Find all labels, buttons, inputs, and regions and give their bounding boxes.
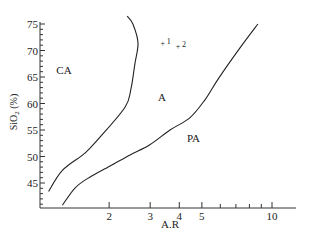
region-label-a: A	[158, 91, 166, 103]
point-label: 2	[182, 40, 186, 49]
y-tick-label: 60	[27, 98, 39, 110]
region-label-pa: PA	[187, 132, 200, 144]
y-tick-label: 65	[27, 71, 39, 83]
x-axis-label: A.R	[161, 218, 180, 230]
boundary-curve-1	[49, 16, 138, 191]
y-ticks: 45505560657075	[27, 18, 45, 204]
y-tick-label: 70	[27, 45, 39, 57]
axes	[40, 22, 296, 208]
y-tick-label: 75	[27, 18, 39, 30]
y-tick-label: 45	[27, 177, 39, 189]
point-marker: +	[161, 39, 166, 48]
x-tick-label: 5	[199, 210, 205, 222]
boundary-curves	[49, 16, 258, 205]
x-tick-label: 10	[267, 210, 279, 222]
y-axis-label: SiO2 (%)	[8, 94, 21, 131]
point-label: 1	[167, 37, 171, 46]
point-marker: +	[176, 42, 181, 51]
boundary-curve-2	[62, 24, 258, 205]
chart: 45505560657075 234510 CAAPA +1+2 A.R SiO…	[0, 0, 310, 241]
y-tick-label: 55	[27, 124, 39, 136]
x-tick-label: 2	[106, 210, 112, 222]
region-label-ca: CA	[56, 64, 71, 76]
region-labels: CAAPA	[56, 64, 200, 144]
x-tick-label: 3	[147, 210, 153, 222]
data-points: +1+2	[161, 37, 186, 52]
y-tick-label: 50	[27, 151, 39, 163]
x-ticks: 234510	[106, 202, 278, 222]
